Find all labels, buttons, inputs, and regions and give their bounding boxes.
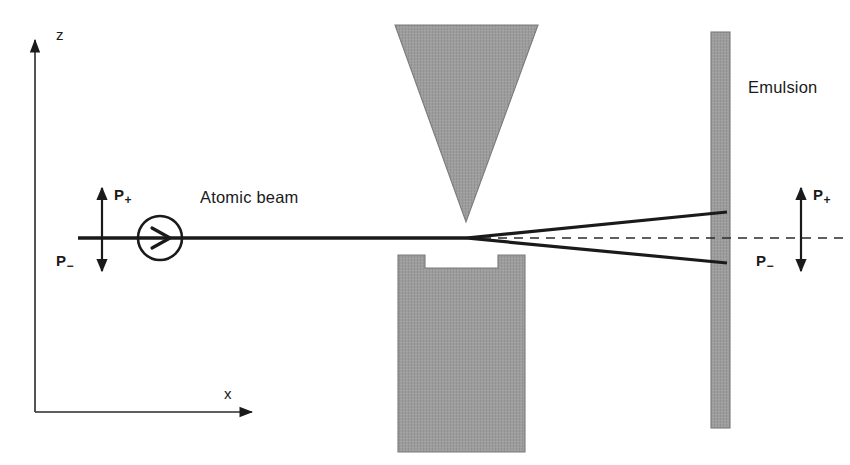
- left-p-plus-label: P+: [114, 186, 132, 207]
- left-p-plus-subscript: +: [124, 193, 132, 207]
- x-axis-label: x: [224, 385, 232, 402]
- right-p-minus-subscript: −: [766, 259, 774, 273]
- left-p-minus-symbol: P: [56, 252, 66, 269]
- coordinate-axes: [35, 40, 252, 412]
- upper-magnet-pole: [395, 25, 538, 222]
- schematic-svg: [0, 0, 850, 465]
- left-p-minus-subscript: −: [66, 259, 74, 273]
- emulsion-plate: [711, 32, 730, 428]
- left-p-minus-label: P−: [56, 252, 74, 273]
- right-p-plus-subscript: +: [823, 193, 831, 207]
- emulsion-label: Emulsion: [748, 78, 817, 97]
- right-p-minus-symbol: P: [756, 252, 766, 269]
- z-axis-label: z: [56, 26, 64, 43]
- deflected-beam-up: [466, 212, 727, 238]
- right-p-plus-symbol: P: [813, 186, 823, 203]
- atomic-beam-label: Atomic beam: [200, 188, 299, 207]
- right-p-minus-label: P−: [756, 252, 774, 273]
- right-p-plus-label: P+: [813, 186, 831, 207]
- left-p-plus-symbol: P: [114, 186, 124, 203]
- figure-canvas: z x Atomic beam Emulsion P+ P− P+ P−: [0, 0, 850, 465]
- lower-magnet-pole: [398, 255, 525, 452]
